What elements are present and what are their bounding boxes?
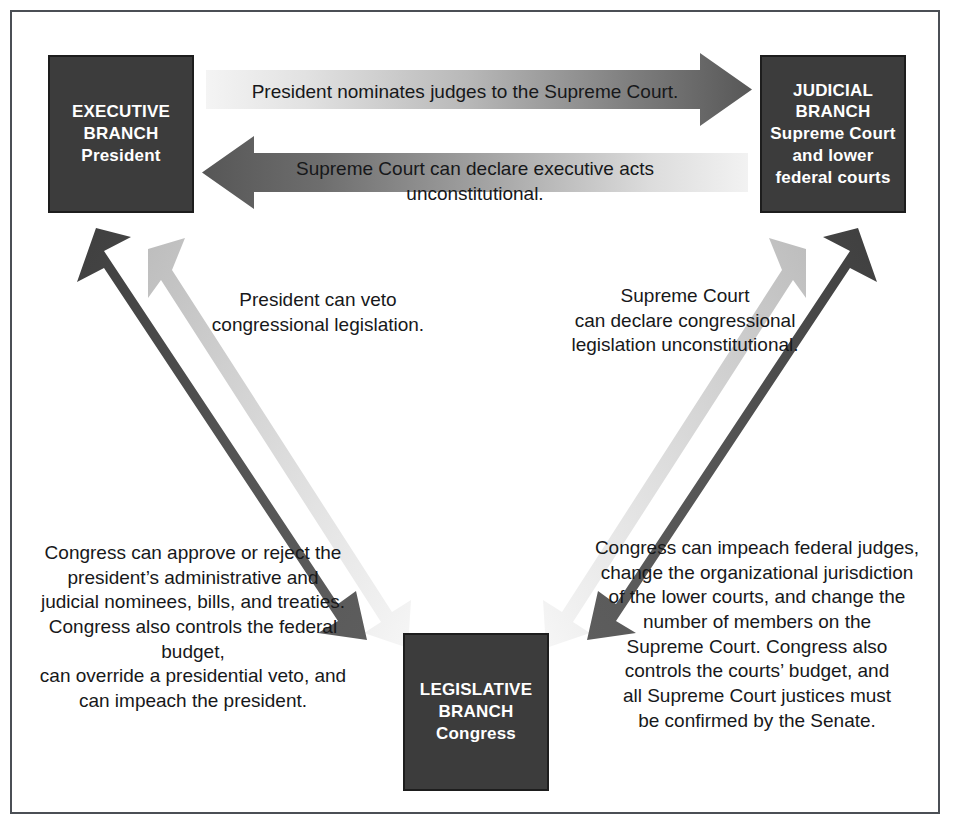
caption-executive-to-judicial: President nominates judges to the Suprem… — [205, 80, 725, 105]
legislative-branch-line-3: Congress — [436, 723, 516, 745]
executive-branch-line-2: BRANCH — [84, 123, 159, 145]
caption-judicial-to-legislative: Supreme Court can declare congressional … — [540, 284, 830, 358]
caption-legislative-to-executive: Congress can approve or reject the presi… — [28, 541, 358, 714]
judicial-branch-line-2: BRANCH — [796, 101, 871, 123]
diagram-canvas: EXECUTIVE BRANCH President JUDICIAL BRAN… — [0, 0, 954, 828]
judicial-branch-line-5: federal courts — [775, 167, 890, 189]
legislative-branch-box[interactable]: LEGISLATIVE BRANCH Congress — [403, 633, 549, 791]
legislative-branch-line-1: LEGISLATIVE — [420, 679, 532, 701]
caption-executive-to-legislative: President can veto congressional legisla… — [178, 288, 458, 337]
executive-branch-box[interactable]: EXECUTIVE BRANCH President — [48, 55, 194, 213]
judicial-branch-line-4: and lower — [792, 145, 873, 167]
executive-branch-line-3: President — [81, 145, 160, 167]
legislative-branch-line-2: BRANCH — [439, 701, 514, 723]
caption-legislative-to-judicial: Congress can impeach federal judges, cha… — [592, 536, 922, 734]
judicial-branch-box[interactable]: JUDICIAL BRANCH Supreme Court and lower … — [760, 55, 906, 213]
caption-judicial-to-executive: Supreme Court can declare executive acts… — [225, 157, 725, 206]
executive-branch-line-1: EXECUTIVE — [72, 101, 170, 123]
judicial-branch-line-1: JUDICIAL — [793, 80, 873, 102]
judicial-branch-line-3: Supreme Court — [770, 123, 895, 145]
